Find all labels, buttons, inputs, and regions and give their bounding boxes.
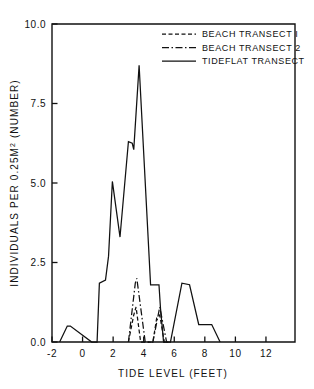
x-tick-label: 10 (229, 348, 241, 359)
x-tick-label: 8 (202, 348, 208, 359)
legend-label-2: BEACH TRANSECT 2 (202, 43, 301, 53)
y-tick-label: 0.0 (31, 337, 46, 348)
y-axis-title-text: INDIVIDUALS PER 0.25M2 (NUMBER) (9, 79, 21, 287)
y-tick-label: 7.5 (31, 98, 46, 109)
y-axis-title: INDIVIDUALS PER 0.25M2 (NUMBER) (9, 79, 21, 287)
x-axis-tick-labels: -2024681012 (47, 348, 272, 359)
y-tick-label: 10.0 (25, 19, 46, 30)
y-axis-ticks (52, 24, 58, 342)
chart-figure: 0.02.55.07.510.0 -2024681012 BEACH TRANS… (0, 0, 314, 389)
x-tick-label: 4 (141, 348, 147, 359)
y-axis-tick-labels: 0.02.55.07.510.0 (25, 19, 46, 348)
x-axis-ticks (52, 337, 266, 343)
data-series-group (60, 65, 220, 342)
y-axis-title-suffix: (NUMBER) (9, 79, 20, 142)
chart-legend: BEACH TRANSECT IBEACH TRANSECT 2TIDEFLAT… (162, 29, 305, 66)
chart-canvas: 0.02.55.07.510.0 -2024681012 BEACH TRANS… (0, 0, 314, 389)
x-tick-label: 6 (171, 348, 177, 359)
y-tick-label: 5.0 (31, 178, 46, 189)
x-axis-title: TIDE LEVEL (FEET) (118, 368, 228, 379)
legend-label-3: TIDEFLAT TRANSECT (202, 56, 305, 66)
x-tick-label: 0 (80, 348, 86, 359)
legend-label-1: BEACH TRANSECT I (202, 29, 298, 39)
x-tick-label: -2 (47, 348, 57, 359)
x-tick-label: 12 (260, 348, 272, 359)
y-tick-label: 2.5 (31, 257, 46, 268)
x-tick-label: 2 (110, 348, 116, 359)
y-axis-title-main: INDIVIDUALS PER 0.25M (9, 147, 20, 287)
plot-frame (52, 24, 295, 342)
